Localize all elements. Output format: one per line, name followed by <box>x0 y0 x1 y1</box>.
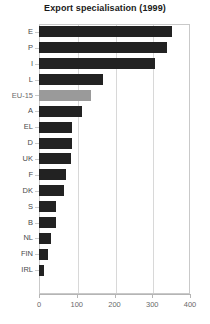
bar-row <box>39 40 190 56</box>
y-axis-tick <box>35 175 39 176</box>
x-axis-label-400: 400 <box>175 300 205 309</box>
bar-f <box>39 169 66 180</box>
y-axis-tick <box>35 127 39 128</box>
bar-p <box>39 42 167 53</box>
y-axis-label-e: E <box>28 24 33 40</box>
y-axis-tick <box>35 80 39 81</box>
y-axis-label-i: I <box>31 56 33 72</box>
y-axis-label-nl: NL <box>23 230 33 246</box>
bar-eu-15 <box>39 90 91 101</box>
bar-row <box>39 215 190 231</box>
y-axis-tick <box>35 32 39 33</box>
bar-row <box>39 103 190 119</box>
bar-l <box>39 74 103 85</box>
bar-nl <box>39 233 51 244</box>
y-axis-label-fin: FIN <box>21 246 33 262</box>
y-axis-label-el: EL <box>24 119 33 135</box>
chart-container: Export specialisation (1999) EPILEU-15AE… <box>0 0 210 324</box>
y-axis-label-d: D <box>28 135 33 151</box>
x-axis-tick-0 <box>39 294 40 298</box>
x-axis-label-200: 200 <box>100 300 130 309</box>
bar-b <box>39 217 56 228</box>
y-axis-tick <box>35 207 39 208</box>
y-axis-tick <box>35 111 39 112</box>
y-axis-tick <box>35 95 39 96</box>
x-axis-tick-100 <box>77 294 78 298</box>
y-axis-label-p: P <box>28 40 33 56</box>
y-axis-tick <box>35 254 39 255</box>
y-axis-label-b: B <box>28 215 33 231</box>
y-axis-labels: EPILEU-15AELDUKFDKSBNLFINIRL <box>0 24 36 294</box>
bar-row <box>39 262 190 278</box>
bar-row <box>39 135 190 151</box>
chart-title: Export specialisation (1999) <box>0 3 210 14</box>
x-axis-label-300: 300 <box>137 300 167 309</box>
bar-row <box>39 230 190 246</box>
x-axis-tick-200 <box>115 294 116 298</box>
bar-row <box>39 199 190 215</box>
y-axis-tick <box>35 191 39 192</box>
y-axis-label-s: S <box>28 199 33 215</box>
x-axis-label-100: 100 <box>62 300 92 309</box>
y-axis-label-eu-15: EU-15 <box>12 88 33 104</box>
y-axis-tick <box>35 270 39 271</box>
bar-a <box>39 106 82 117</box>
x-axis-tick-400 <box>190 294 191 298</box>
bar-s <box>39 201 56 212</box>
bar-d <box>39 138 72 149</box>
bars-layer <box>39 24 190 294</box>
bar-el <box>39 122 72 133</box>
bar-i <box>39 58 155 69</box>
bar-dk <box>39 185 64 196</box>
y-axis-tick <box>35 48 39 49</box>
x-axis-label-0: 0 <box>24 300 54 309</box>
y-axis-tick <box>35 238 39 239</box>
x-axis-tick-300 <box>152 294 153 298</box>
bar-row <box>39 167 190 183</box>
bar-uk <box>39 153 71 164</box>
y-axis-tick <box>35 159 39 160</box>
bar-irl <box>39 265 44 276</box>
bar-row <box>39 88 190 104</box>
y-axis-tick <box>35 64 39 65</box>
y-axis-tick <box>35 223 39 224</box>
bar-row <box>39 24 190 40</box>
bar-row <box>39 246 190 262</box>
y-axis-label-dk: DK <box>23 183 33 199</box>
bar-row <box>39 72 190 88</box>
bar-row <box>39 119 190 135</box>
bar-row <box>39 183 190 199</box>
y-axis-label-uk: UK <box>23 151 33 167</box>
bar-row <box>39 151 190 167</box>
y-axis-label-a: A <box>28 103 33 119</box>
bar-fin <box>39 249 48 260</box>
bar-e <box>39 26 172 37</box>
y-axis-label-irl: IRL <box>21 262 33 278</box>
bar-row <box>39 56 190 72</box>
y-axis-label-f: F <box>28 167 33 183</box>
y-axis-tick <box>35 143 39 144</box>
y-axis-label-l: L <box>29 72 33 88</box>
